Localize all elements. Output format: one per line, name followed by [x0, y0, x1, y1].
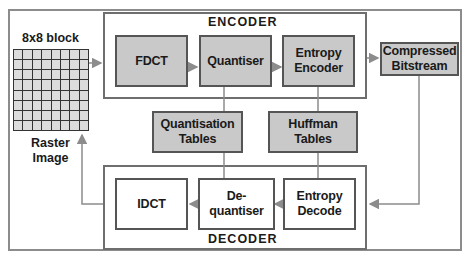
edge-bitstream-entropy-decode — [370, 76, 419, 204]
huffman-tables-label: Huffman Tables — [288, 117, 338, 147]
huffman-tables-block: Huffman Tables — [268, 111, 358, 153]
entropy-encoder-label: Entropy Encoder — [291, 46, 347, 76]
bitstream-block: Compressed Bitstream — [380, 42, 459, 76]
source-bottom-label: Raster Image — [28, 136, 73, 166]
dequantiser-block: De-quantiser — [198, 178, 275, 230]
quantiser-label: Quantiser — [207, 54, 264, 69]
bitstream-label: Compressed Bitstream — [382, 44, 457, 74]
entropy-decode-block: Entropy Decode — [283, 178, 356, 230]
quantiser-block: Quantiser — [199, 35, 272, 87]
fdct-block: FDCT — [115, 35, 188, 87]
dequantiser-label: De-quantiser — [200, 189, 273, 219]
pixel-grid — [13, 49, 89, 131]
quantisation-tables-label: Quantisation Tables — [158, 117, 238, 147]
entropy-encoder-block: Entropy Encoder — [282, 35, 355, 87]
quantisation-tables-block: Quantisation Tables — [152, 111, 243, 153]
fdct-label: FDCT — [135, 54, 168, 69]
edge-idct-source — [82, 135, 103, 204]
source-top-label: 8x8 block — [8, 31, 93, 46]
idct-label: IDCT — [137, 197, 165, 212]
idct-block: IDCT — [115, 178, 188, 230]
entropy-decode-label: Entropy Decode — [295, 189, 345, 219]
